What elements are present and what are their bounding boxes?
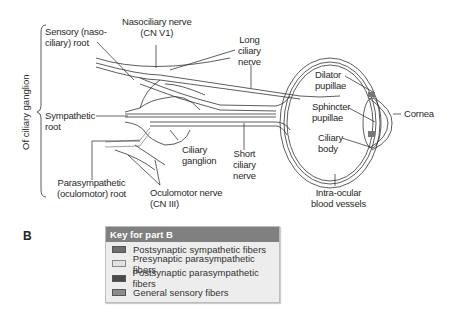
label-intraocular-vessels: Intra-ocular blood vessels	[311, 187, 366, 209]
label-short-ciliary-nerve: Short ciliary nerve	[233, 148, 256, 181]
label-sphincter-pupillae: Sphincter pupillae	[312, 101, 350, 123]
label-dilator-pupillae: Dilator pupillae	[315, 69, 346, 91]
key-item: Postsynaptic parasympathetic fibers	[106, 271, 279, 286]
swatch-general-sensory	[112, 289, 126, 296]
label-nasociliary-nerve: Nasociliary nerve (CN V1)	[122, 16, 191, 38]
part-label: B	[23, 229, 32, 243]
swatch-postsynaptic-parasympathetic	[112, 275, 126, 282]
label-ciliary-ganglion: Ciliary ganglion	[182, 144, 216, 166]
label-sympathetic-root: Sympathetic root	[45, 110, 95, 132]
label-cornea: Cornea	[404, 108, 434, 119]
key-legend: Key for part B Postsynaptic sympathetic …	[105, 226, 280, 303]
bracket-label: Of ciliary ganglion	[20, 74, 31, 150]
label-oculomotor-nerve: Oculomotor nerve (CN III)	[150, 187, 222, 209]
label-sensory-root: Sensory (naso- ciliary) root	[45, 26, 107, 48]
swatch-presynaptic-parasympathetic	[112, 260, 126, 267]
label-ciliary-body: Ciliary body	[318, 132, 343, 154]
label-parasympathetic-root: Parasympathetic (oculomotor) root	[57, 177, 126, 199]
label-long-ciliary-nerve: Long ciliary nerve	[238, 34, 261, 67]
swatch-postsynaptic-sympathetic	[112, 246, 126, 253]
key-title: Key for part B	[106, 227, 279, 242]
